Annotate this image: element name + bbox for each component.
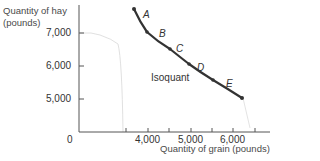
label-a: A — [143, 9, 150, 20]
label-c: C — [176, 43, 183, 54]
point-d — [187, 62, 191, 66]
label-e: E — [226, 78, 233, 89]
label-b: B — [159, 28, 166, 39]
background-trace — [243, 98, 250, 128]
point-a — [132, 7, 136, 11]
isoquant-label: Isoquant — [151, 72, 189, 83]
point-e — [211, 78, 215, 82]
point-end — [240, 96, 244, 100]
point-c — [168, 47, 172, 51]
label-d: D — [197, 62, 204, 73]
point-b — [145, 30, 149, 34]
background-trace — [80, 33, 123, 132]
